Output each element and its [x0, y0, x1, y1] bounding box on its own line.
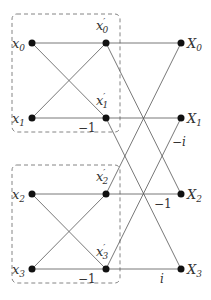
- svg-text:−1: −1: [78, 121, 96, 135]
- svg-text:i: i: [160, 272, 164, 286]
- svg-text:X0: X0: [186, 36, 202, 53]
- nodes: [29, 40, 185, 273]
- svg-text:X1: X1: [186, 111, 202, 128]
- svg-text:−1: −1: [154, 197, 172, 211]
- svg-text:−1: −1: [78, 272, 96, 286]
- edges: [32, 43, 181, 269]
- svg-text:x′0: x′0: [96, 17, 108, 35]
- fft-diagram: x0 x1 x2 x3 x′0 x′1 x′2 x′3 X0 X1 X2 X3 …: [0, 0, 211, 300]
- svg-text:x2: x2: [12, 187, 25, 204]
- svg-text:x0: x0: [12, 36, 25, 53]
- svg-text:X3: X3: [186, 262, 202, 279]
- svg-text:x′3: x′3: [96, 243, 108, 261]
- diagram-canvas: x0 x1 x2 x3 x′0 x′1 x′2 x′3 X0 X1 X2 X3 …: [0, 0, 211, 300]
- svg-text:x′2: x′2: [96, 168, 108, 186]
- svg-text:x3: x3: [12, 262, 25, 279]
- svg-text:−i: −i: [172, 135, 186, 149]
- svg-text:x′1: x′1: [96, 92, 108, 110]
- svg-text:x1: x1: [12, 111, 25, 128]
- svg-text:X2: X2: [186, 187, 202, 204]
